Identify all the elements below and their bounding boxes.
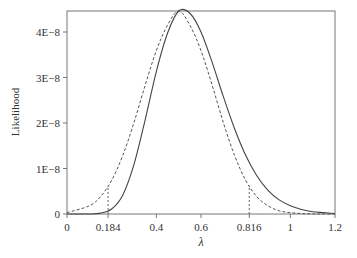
y-axis-ticks: 01E−82E−83E−84E−8 xyxy=(36,26,67,220)
x-axis-label: λ xyxy=(197,235,203,249)
series-layer xyxy=(67,9,335,214)
x-tick-label: 0.816 xyxy=(237,221,262,233)
x-tick-label: 0 xyxy=(64,221,70,233)
plot-frame xyxy=(67,11,335,214)
x-tick-label: 0.6 xyxy=(194,221,208,233)
x-tick-label: 1.2 xyxy=(328,221,342,233)
likelihood-curve xyxy=(67,9,335,214)
y-axis-label: Likelihood xyxy=(9,87,21,136)
y-tick-label: 2E−8 xyxy=(36,117,60,129)
y-tick-label: 1E−8 xyxy=(36,163,60,175)
x-tick-label: 1 xyxy=(288,221,294,233)
normal-approx-curve xyxy=(67,11,335,214)
y-tick-label: 0 xyxy=(55,208,61,220)
reference-lines xyxy=(108,186,249,214)
likelihood-chart: 00.1840.40.60.81611.2 01E−82E−83E−84E−8 … xyxy=(0,0,357,258)
x-tick-label: 0.184 xyxy=(96,221,121,233)
y-tick-label: 4E−8 xyxy=(36,26,60,38)
x-axis-ticks: 00.1840.40.60.81611.2 xyxy=(64,214,342,233)
y-tick-label: 3E−8 xyxy=(36,72,60,84)
x-tick-label: 0.4 xyxy=(149,221,163,233)
